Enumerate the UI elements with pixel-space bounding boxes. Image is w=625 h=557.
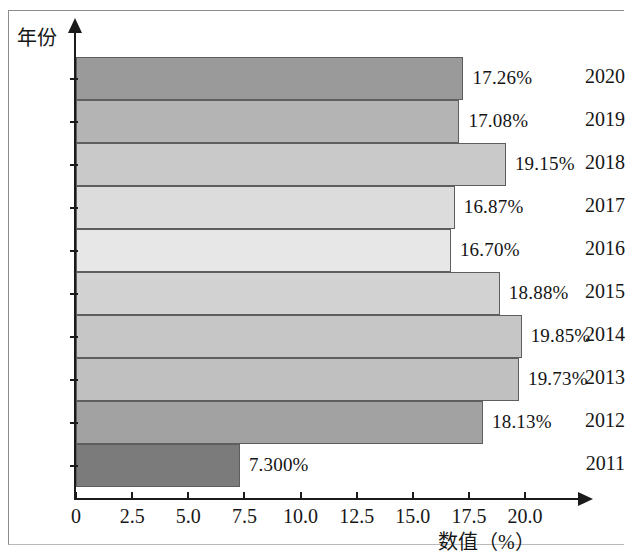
y-tick-mark bbox=[70, 293, 78, 295]
x-axis-title: 数值（%） bbox=[438, 526, 535, 555]
x-tick-label-8: 20.0 bbox=[508, 505, 543, 528]
bar-row: 18.13% bbox=[0, 401, 625, 444]
y-tick-label-2015: 2015 bbox=[563, 280, 625, 303]
y-tick-mark bbox=[70, 336, 78, 338]
y-tick-mark bbox=[70, 121, 78, 123]
x-tick-label-5: 12.5 bbox=[339, 505, 374, 528]
y-tick-label-2012: 2012 bbox=[563, 409, 625, 432]
x-tick-label-6: 15.0 bbox=[395, 505, 430, 528]
bar[interactable] bbox=[76, 186, 455, 229]
bar-row: 16.70% bbox=[0, 229, 625, 272]
y-tick-label-2018: 2018 bbox=[563, 151, 625, 174]
bar-row: 17.08% bbox=[0, 100, 625, 143]
x-axis-arrow-icon bbox=[578, 492, 593, 506]
y-axis-arrow-icon bbox=[68, 18, 82, 33]
bar-row: 17.26% bbox=[0, 57, 625, 100]
x-tick-mark bbox=[75, 492, 77, 500]
x-tick-mark bbox=[187, 492, 189, 500]
x-tick-mark bbox=[131, 492, 133, 500]
bar-value-label: 16.70% bbox=[460, 239, 520, 261]
y-tick-label-2020: 2020 bbox=[563, 65, 625, 88]
y-tick-label-2016: 2016 bbox=[563, 237, 625, 260]
bar-row: 16.87% bbox=[0, 186, 625, 229]
bar[interactable] bbox=[76, 444, 240, 487]
bar-row: 19.15% bbox=[0, 143, 625, 186]
bar-chart-plot: 年份 数值（%） 17.26%17.08%19.15%16.87%16.70%1… bbox=[0, 0, 625, 557]
x-tick-mark bbox=[356, 492, 358, 500]
y-tick-mark bbox=[70, 164, 78, 166]
y-tick-mark bbox=[70, 422, 78, 424]
bar-value-label: 16.87% bbox=[464, 196, 524, 218]
bar-value-label: 17.26% bbox=[472, 67, 532, 89]
bar-row: 18.88% bbox=[0, 272, 625, 315]
bar-row: 19.85% bbox=[0, 315, 625, 358]
x-tick-label-7: 17.5 bbox=[451, 505, 486, 528]
y-tick-mark bbox=[70, 465, 78, 467]
x-tick-label-0: 0 bbox=[71, 505, 81, 528]
y-tick-label-2011: 2011 bbox=[563, 452, 625, 475]
y-tick-mark bbox=[70, 379, 78, 381]
y-tick-label-2013: 2013 bbox=[563, 366, 625, 389]
bar-value-label: 18.13% bbox=[492, 411, 552, 433]
x-axis-line bbox=[74, 498, 582, 500]
bar[interactable] bbox=[76, 272, 500, 315]
x-tick-label-1: 2.5 bbox=[120, 505, 145, 528]
x-tick-label-2: 5.0 bbox=[176, 505, 201, 528]
bar[interactable] bbox=[76, 401, 483, 444]
bar[interactable] bbox=[76, 315, 522, 358]
y-tick-mark bbox=[70, 250, 78, 252]
bar-value-label: 17.08% bbox=[468, 110, 528, 132]
y-tick-label-2014: 2014 bbox=[563, 323, 625, 346]
y-tick-label-2019: 2019 bbox=[563, 108, 625, 131]
bar-value-label: 7.300% bbox=[249, 454, 309, 476]
bar-value-label: 18.88% bbox=[509, 282, 569, 304]
bar[interactable] bbox=[76, 100, 459, 143]
y-tick-mark bbox=[70, 78, 78, 80]
bar-row: 19.73% bbox=[0, 358, 625, 401]
x-tick-mark bbox=[300, 492, 302, 500]
y-tick-mark bbox=[70, 207, 78, 209]
figure: 年份 数值（%） 17.26%17.08%19.15%16.87%16.70%1… bbox=[0, 0, 625, 557]
y-tick-label-2017: 2017 bbox=[563, 194, 625, 217]
x-tick-mark bbox=[243, 492, 245, 500]
bar[interactable] bbox=[76, 57, 463, 100]
bar[interactable] bbox=[76, 358, 519, 401]
bar[interactable] bbox=[76, 229, 451, 272]
x-tick-mark bbox=[524, 492, 526, 500]
x-tick-mark bbox=[468, 492, 470, 500]
x-tick-label-4: 10.0 bbox=[283, 505, 318, 528]
bar[interactable] bbox=[76, 143, 506, 186]
bar-row: 7.300% bbox=[0, 444, 625, 487]
y-axis-title: 年份 bbox=[17, 22, 57, 51]
x-tick-label-3: 7.5 bbox=[232, 505, 257, 528]
x-tick-mark bbox=[412, 492, 414, 500]
